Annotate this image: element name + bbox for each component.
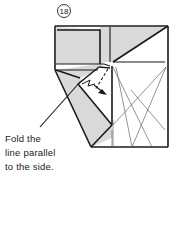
caption-line-2: line parallel: [5, 146, 56, 160]
caption-line-3: to the side.: [5, 160, 56, 174]
instruction-caption: Fold the line parallel to the side.: [5, 132, 56, 174]
crease-lines: [112, 67, 166, 147]
caption-line-1: Fold the: [5, 132, 56, 146]
